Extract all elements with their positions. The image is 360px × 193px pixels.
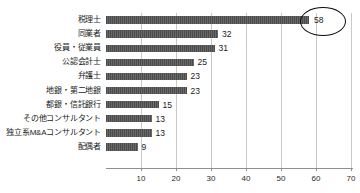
bar-8: [106, 129, 152, 136]
bar-row: 地銀・第二地銀 23: [0, 84, 360, 98]
category-label: 公認会計士: [0, 55, 101, 69]
bar-0: [106, 16, 309, 23]
value-label-5: 23: [191, 84, 200, 98]
category-label: 同業者: [0, 27, 101, 41]
category-label: 独立系M&Aコンサルタント: [0, 126, 101, 140]
bar-1: [106, 30, 218, 37]
value-label-8: 13: [156, 126, 165, 140]
x-tick-label-70: 70: [346, 174, 355, 183]
value-label-1: 32: [222, 27, 231, 41]
value-label-7: 13: [156, 112, 165, 126]
x-tick-label-20: 20: [171, 174, 180, 183]
bar-6: [106, 101, 159, 108]
x-tick-label-60: 60: [311, 174, 320, 183]
x-tick-label-10: 10: [136, 174, 145, 183]
x-tick-10: [141, 168, 142, 171]
x-tick-20: [176, 168, 177, 171]
bar-3: [106, 59, 194, 66]
bar-7: [106, 115, 152, 122]
bar-chart: 税理士 58 同業者 32 役員・従業員 31 公認会計士 25 弁護士 23 …: [0, 0, 360, 193]
x-tick-70: [351, 168, 352, 171]
value-label-6: 15: [163, 98, 172, 112]
bar-4: [106, 73, 187, 80]
category-label: 役員・従業員: [0, 41, 101, 55]
x-tick-label-40: 40: [241, 174, 250, 183]
value-label-4: 23: [191, 69, 200, 83]
bar-row: 弁護士 23: [0, 69, 360, 83]
category-label: 都銀・信託銀行: [0, 98, 101, 112]
value-label-3: 25: [198, 55, 207, 69]
x-tick-30: [211, 168, 212, 171]
bar-row: 独立系M&Aコンサルタント 13: [0, 126, 360, 140]
bar-row: その他コンサルタント 13: [0, 112, 360, 126]
category-label: 地銀・第二地銀: [0, 84, 101, 98]
bar-2: [106, 45, 215, 52]
value-label-9: 9: [142, 140, 147, 154]
x-tick-60: [316, 168, 317, 171]
bar-9: [106, 143, 138, 150]
x-tick-40: [246, 168, 247, 171]
bar-row: 公認会計士 25: [0, 55, 360, 69]
category-label: 税理士: [0, 13, 101, 27]
x-tick-50: [281, 168, 282, 171]
highlight-ellipse-annotation: [300, 7, 346, 36]
bar-row: 配偶者 9: [0, 140, 360, 154]
x-tick-label-50: 50: [276, 174, 285, 183]
bar-row: 役員・従業員 31: [0, 41, 360, 55]
category-label: その他コンサルタント: [0, 112, 101, 126]
bar-5: [106, 87, 187, 94]
category-label: 配偶者: [0, 140, 101, 154]
value-label-2: 31: [219, 41, 228, 55]
bar-row: 都銀・信託銀行 15: [0, 98, 360, 112]
x-tick-label-30: 30: [206, 174, 215, 183]
category-label: 弁護士: [0, 69, 101, 83]
